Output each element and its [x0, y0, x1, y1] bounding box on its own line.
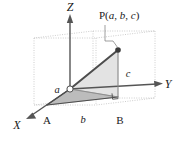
point-p-label-prefix: P(	[99, 9, 109, 22]
x-axis-label: X	[12, 118, 21, 132]
origin-marker	[67, 86, 73, 92]
coordinate-diagram: Z Y X	[0, 0, 179, 142]
z-axis: Z	[67, 0, 74, 89]
box-top-back	[34, 31, 155, 38]
point-p-label-suffix: )	[136, 9, 140, 22]
length-c-label: c	[126, 68, 131, 79]
z-axis-arrowhead	[67, 14, 73, 23]
point-p-marker	[115, 47, 121, 53]
length-b-label: b	[80, 114, 85, 125]
length-a-label: a	[54, 84, 59, 95]
y-axis-arrowhead	[154, 81, 163, 87]
y-axis-label: Y	[165, 77, 173, 91]
point-p-label: P(a, b, c)	[99, 9, 140, 22]
figure-container: Z Y X	[0, 0, 179, 142]
z-axis-label: Z	[67, 0, 74, 14]
vertex-a-label: A	[43, 114, 51, 126]
vertex-b-label: B	[116, 114, 123, 126]
